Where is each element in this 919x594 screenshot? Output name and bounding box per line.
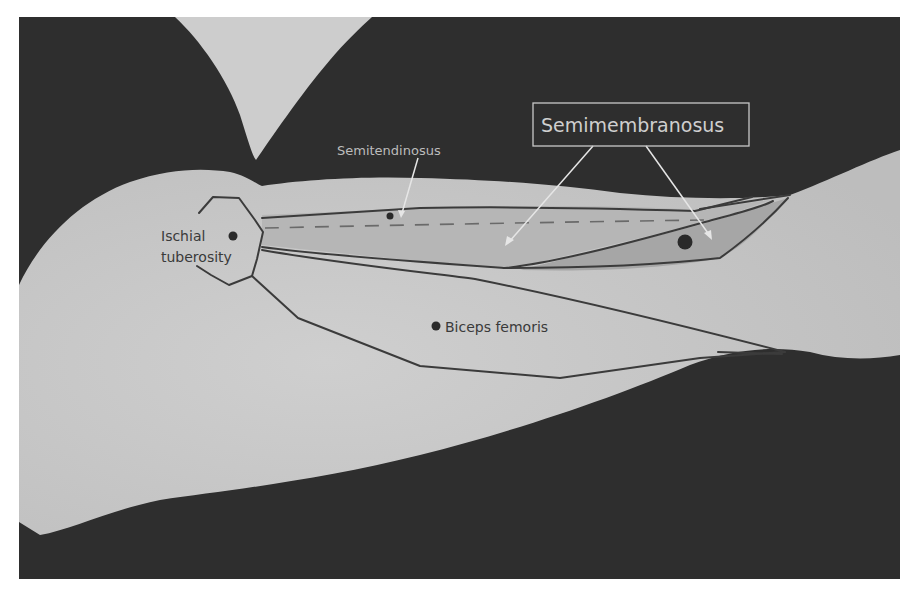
semitendinosus-dot <box>387 213 394 220</box>
biceps-femoris-label: Biceps femoris <box>445 319 548 335</box>
semimembranosus-dot <box>678 235 693 250</box>
hamstring-anatomy-figure: Ischial tuberosity Semitendinosus Semime… <box>0 0 919 594</box>
diagram-canvas: Ischial tuberosity Semitendinosus Semime… <box>0 0 919 594</box>
ischial-label-line1: Ischial <box>161 228 205 244</box>
semitendinosus-label: Semitendinosus <box>337 143 441 158</box>
ischial-label-line2: tuberosity <box>161 249 232 265</box>
biceps-femoris-dot <box>432 322 441 331</box>
ischial-tuberosity-dot <box>229 232 238 241</box>
semimembranosus-label: Semimembranosus <box>541 114 724 136</box>
